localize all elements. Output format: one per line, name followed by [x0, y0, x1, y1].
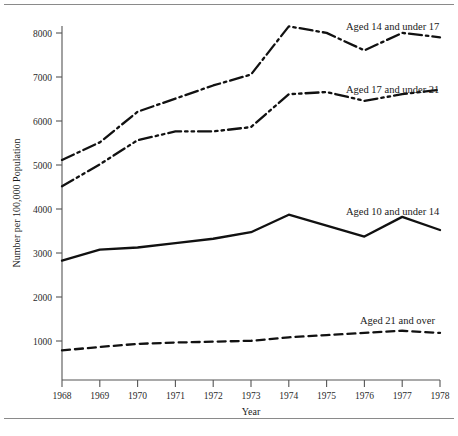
series-line-aged-21-over — [62, 331, 440, 351]
series-label-aged-10-under-14: Aged 10 and under 14 — [346, 206, 440, 217]
y-tick-label-3000: 3000 — [33, 249, 52, 259]
y-tick-label-7000: 7000 — [33, 73, 52, 83]
y-tick-label-1000: 1000 — [33, 337, 52, 347]
series-label-aged-17-under-21: Aged 17 and under 21 — [346, 84, 439, 95]
y-tick-label-6000: 6000 — [33, 117, 52, 127]
y-tick-label-5000: 5000 — [33, 161, 52, 171]
y-tick-label-4000: 4000 — [33, 205, 52, 215]
x-tick-label-1971: 1971 — [166, 391, 185, 401]
x-tick-label-1977: 1977 — [393, 391, 412, 401]
x-tick-label-1969: 1969 — [90, 391, 109, 401]
x-tick-label-1972: 1972 — [204, 391, 223, 401]
x-tick-label-1978: 1978 — [431, 391, 450, 401]
x-axis-ticks: 1968 1969 1970 1971 1972 1973 1974 1975 … — [53, 380, 450, 401]
x-tick-label-1970: 1970 — [128, 391, 147, 401]
series-line-aged-17-under-21 — [62, 90, 440, 186]
series-label-aged-21-over: Aged 21 and over — [360, 315, 435, 326]
x-tick-label-1974: 1974 — [279, 391, 298, 401]
y-axis-title: Number per 100,000 Population — [11, 139, 22, 268]
y-tick-label-8000: 8000 — [33, 29, 52, 39]
line-chart: 8000 7000 6000 5000 4000 3000 2000 1000 … — [0, 0, 458, 436]
x-tick-label-1973: 1973 — [242, 391, 261, 401]
figure-container: 8000 7000 6000 5000 4000 3000 2000 1000 … — [0, 0, 458, 436]
series-label-aged-14-under-17: Aged 14 and under 17 — [346, 21, 439, 32]
x-tick-label-1975: 1975 — [317, 391, 336, 401]
y-axis-ticks: 8000 7000 6000 5000 4000 3000 2000 1000 — [33, 29, 62, 347]
y-tick-label-2000: 2000 — [33, 293, 52, 303]
x-tick-label-1976: 1976 — [355, 391, 374, 401]
x-axis-title: Year — [242, 406, 261, 417]
x-tick-label-1968: 1968 — [53, 391, 72, 401]
series-line-aged-10-under-14 — [62, 215, 440, 261]
